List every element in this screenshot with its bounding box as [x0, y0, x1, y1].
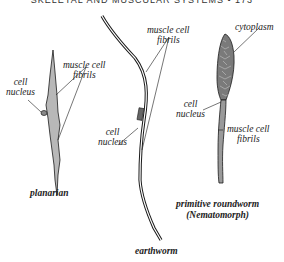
earthworm-fibrils-label: muscle cell fibrils: [147, 25, 189, 45]
roundworm-cell-drawing: [203, 28, 259, 183]
roundworm-cytoplasm-label: cytoplasm: [235, 22, 274, 32]
roundworm-fibrils-label: muscle cell fibrils: [227, 124, 269, 144]
roundworm-nucleus-label: cell nucleus: [176, 99, 205, 119]
earthworm-caption: earthworm: [135, 246, 178, 257]
planarian-caption: planarian: [30, 188, 69, 199]
earthworm-nucleus-label: cell nucleus: [98, 127, 127, 147]
planarian-nucleus-label: cell nucleus: [6, 77, 35, 97]
roundworm-caption: primitive roundworm (Nematomorph): [176, 199, 259, 221]
planarian-fibrils-label: muscle cell fibrils: [63, 60, 105, 80]
